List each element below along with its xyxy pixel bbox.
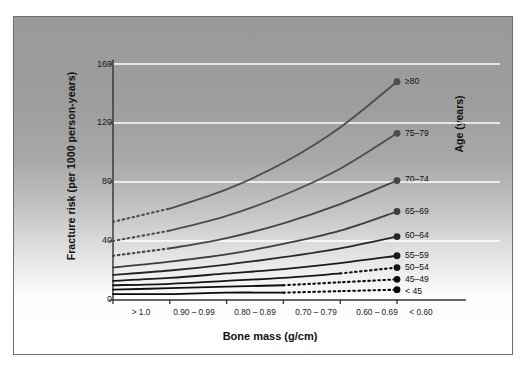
series-curves	[113, 82, 397, 295]
series-endpoint-markers	[394, 78, 401, 293]
chart-plot-area	[0, 0, 529, 370]
axis-ticks	[109, 64, 397, 304]
figure-root: Fracture risk (per 1000 person-years) Bo…	[0, 0, 529, 370]
gridlines	[113, 64, 500, 241]
axis-lines	[113, 60, 466, 300]
